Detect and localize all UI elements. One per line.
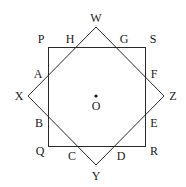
label-r: R <box>150 144 158 158</box>
label-b: B <box>35 116 43 130</box>
label-w: W <box>90 11 102 25</box>
label-q: Q <box>36 144 45 158</box>
label-f: F <box>151 67 158 81</box>
label-h: H <box>66 32 75 46</box>
center-point-o <box>94 94 97 97</box>
label-s: S <box>150 32 157 46</box>
label-p: P <box>38 32 45 46</box>
label-y: Y <box>92 169 101 183</box>
label-o: O <box>92 99 101 113</box>
label-e: E <box>150 116 157 130</box>
label-c: C <box>68 149 76 163</box>
label-x: X <box>15 89 24 103</box>
label-g: G <box>120 32 129 46</box>
geometry-diagram: W X Z Y P S Q R H G A F B E C D O <box>0 0 186 187</box>
label-d: D <box>117 149 126 163</box>
label-a: A <box>34 67 43 81</box>
label-z: Z <box>169 89 176 103</box>
